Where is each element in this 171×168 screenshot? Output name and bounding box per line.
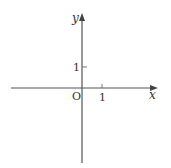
- x-axis-label: x: [149, 88, 156, 102]
- origin-label: O: [72, 90, 81, 103]
- x-tick-label: 1: [99, 91, 106, 104]
- y-tick-label: 1: [73, 61, 80, 74]
- y-axis-arrow-icon: [79, 13, 85, 21]
- y-axis-label: y: [71, 11, 79, 25]
- coordinate-plane: y x O 1 1: [0, 0, 171, 168]
